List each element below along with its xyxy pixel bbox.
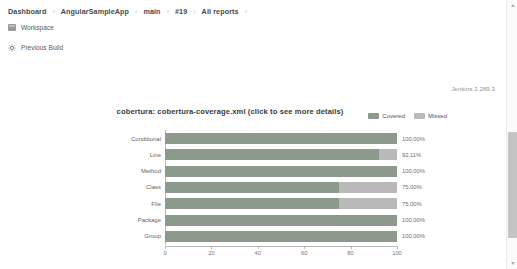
breadcrumb-item-dashboard[interactable]: Dashboard — [8, 7, 46, 16]
chart-bar-covered[interactable] — [165, 182, 339, 193]
chart-bar-row[interactable]: Class75.00% — [165, 182, 397, 193]
chart-bar-row[interactable]: Line92.11% — [165, 149, 397, 160]
coverage-chart-panel: cobertura: cobertura-coverage.xml (click… — [0, 100, 505, 269]
chart-bar-track — [165, 149, 397, 160]
scrollbar-thumb[interactable] — [508, 132, 517, 238]
breadcrumb-item-build-number[interactable]: #19 — [175, 7, 187, 16]
chart-bar-covered[interactable] — [165, 231, 397, 242]
chart-x-tick-label: 40 — [255, 250, 261, 256]
chart-bar-row[interactable]: Method100.00% — [165, 166, 397, 177]
chart-x-tick-label: 100 — [392, 250, 402, 256]
chart-x-tick-label: 80 — [347, 250, 353, 256]
task-item-workspace[interactable]: Workspace — [8, 21, 158, 34]
chart-x-tick — [397, 246, 398, 249]
legend-label-missed: Missed — [428, 113, 447, 119]
chart-bar-row[interactable]: Group100.00% — [165, 231, 397, 242]
breadcrumb-separator: › — [239, 8, 253, 15]
chart-bar-row[interactable]: File75.00% — [165, 198, 397, 209]
chart-x-tick-label: 60 — [301, 250, 307, 256]
chart-x-tick — [211, 246, 212, 249]
chart-value-label: 100.00% — [402, 233, 425, 239]
chart-bar-missed[interactable] — [379, 149, 397, 160]
chart-bar-track — [165, 198, 397, 209]
chart-category-label: Method — [141, 168, 161, 174]
chart-category-label: Class — [146, 184, 161, 190]
chart-bar-row[interactable]: Package100.00% — [165, 215, 397, 226]
breadcrumb-item-all-reports[interactable]: All reports — [202, 7, 239, 16]
chart-plot-area: Conditional100.00%Line92.11%Method100.00… — [165, 130, 397, 245]
chart-bar-track — [165, 182, 397, 193]
breadcrumb-separator: › — [161, 8, 175, 15]
chart-x-tick — [351, 246, 352, 249]
chart-bar-missed[interactable] — [339, 198, 397, 209]
breadcrumb-item-project[interactable]: AngularSampleApp — [61, 7, 129, 16]
chart-bar-covered[interactable] — [165, 166, 397, 177]
chart-x-tick — [304, 246, 305, 249]
legend-item-covered[interactable]: Covered — [368, 113, 405, 119]
chart-value-label: 92.11% — [402, 152, 421, 158]
chart-category-label: Package — [138, 217, 161, 223]
chart-bar-track — [165, 215, 397, 226]
chart-category-label: Line — [150, 152, 161, 158]
chart-value-label: 100.00% — [402, 136, 425, 142]
chart-bar-covered[interactable] — [165, 149, 379, 160]
chart-value-label: 100.00% — [402, 168, 425, 174]
chart-x-axis-line — [165, 246, 397, 247]
vertical-scrollbar[interactable] — [506, 0, 517, 269]
chart-bar-rows: Conditional100.00%Line92.11%Method100.00… — [165, 130, 397, 245]
legend-label-covered: Covered — [382, 113, 405, 119]
chart-category-label: Conditional — [131, 136, 161, 142]
chart-bar-covered[interactable] — [165, 215, 397, 226]
chart-bar-covered[interactable] — [165, 198, 339, 209]
task-item-previous-build[interactable]: Previous Build — [8, 41, 158, 54]
chart-value-label: 100.00% — [402, 217, 425, 223]
breadcrumb-separator: › — [129, 8, 143, 15]
scroll-up-arrow-icon[interactable] — [507, 0, 517, 11]
chart-bar-row[interactable]: Conditional100.00% — [165, 133, 397, 144]
breadcrumb-separator: › — [187, 8, 201, 15]
breadcrumb: Dashboard › AngularSampleApp › main › #1… — [0, 4, 505, 19]
breadcrumb-item-branch[interactable]: main — [143, 7, 160, 16]
chart-bar-track — [165, 166, 397, 177]
chart-x-tick-label: 0 — [163, 250, 166, 256]
chart-bar-track — [165, 133, 397, 144]
gear-icon — [8, 44, 16, 52]
chart-x-tick-label: 20 — [208, 250, 214, 256]
jenkins-version-label: Jenkins 2.289.3 — [451, 86, 495, 92]
legend-swatch-missed — [414, 113, 425, 119]
page-root: Dashboard › AngularSampleApp › main › #1… — [0, 0, 517, 269]
chart-x-tick — [258, 246, 259, 249]
chart-category-label: Group — [144, 233, 161, 239]
task-list: Workspace Previ — [8, 21, 158, 61]
task-label: Workspace — [21, 24, 54, 31]
legend-item-missed[interactable]: Missed — [414, 113, 447, 119]
scroll-down-arrow-icon[interactable] — [507, 258, 517, 269]
task-label: Previous Build — [21, 44, 63, 51]
chart-value-label: 75.00% — [402, 201, 422, 207]
folder-icon — [8, 24, 16, 31]
chart-bar-missed[interactable] — [339, 182, 397, 193]
chart-x-axis: 020406080100 — [165, 246, 397, 260]
chart-bar-covered[interactable] — [165, 133, 397, 144]
chart-bar-track — [165, 231, 397, 242]
chart-value-label: 75.00% — [402, 184, 422, 190]
chart-category-label: File — [151, 201, 161, 207]
legend-swatch-covered — [368, 113, 379, 119]
chart-x-tick — [165, 246, 166, 249]
breadcrumb-separator: › — [46, 8, 60, 15]
chart-legend: Covered Missed — [368, 113, 447, 119]
